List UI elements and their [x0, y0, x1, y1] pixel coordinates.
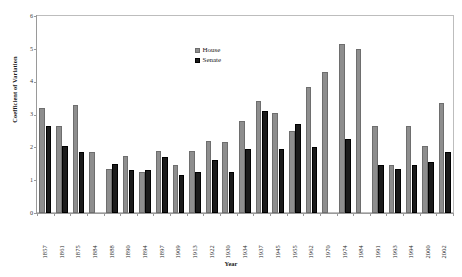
x-tick-mark — [87, 213, 88, 216]
x-tick-label-1962: 1962 — [308, 245, 314, 259]
x-tick-mark — [420, 213, 421, 216]
y-tick-label: 3 — [3, 111, 33, 117]
x-tick-label-1934: 1934 — [242, 245, 248, 259]
x-tick-mark — [287, 213, 288, 216]
bar-senate-1922 — [212, 160, 218, 213]
bar-senate-1913 — [195, 172, 201, 213]
x-tick-mark — [337, 213, 338, 216]
y-tick-label: 4 — [3, 78, 33, 84]
bar-house-1894 — [139, 172, 145, 213]
y-tick-mark — [34, 180, 37, 181]
legend-label-house: House — [203, 46, 221, 56]
bar-senate-1945 — [279, 149, 285, 213]
bar-house-2002 — [439, 103, 445, 213]
x-tick-mark — [153, 213, 154, 216]
y-tick-label: 0 — [3, 210, 33, 216]
x-tick-label-1884: 1884 — [92, 245, 98, 259]
bar-house-2000 — [422, 146, 428, 213]
bar-house-1888 — [106, 169, 112, 213]
bar-house-1922 — [206, 141, 212, 213]
y-tick-mark — [34, 147, 37, 148]
bar-house-1945 — [272, 113, 278, 213]
x-tick-label-1991: 1991 — [375, 245, 381, 259]
bar-house-1934 — [239, 121, 245, 213]
x-tick-mark — [37, 213, 38, 216]
x-tick-mark — [436, 213, 437, 216]
bar-senate-1897 — [162, 157, 168, 213]
x-tick-label-1922: 1922 — [209, 245, 215, 259]
x-axis-title: Year — [0, 260, 462, 267]
x-tick-label-1993: 1993 — [392, 245, 398, 259]
bar-senate-1974 — [345, 139, 351, 213]
y-tick-mark — [34, 115, 37, 116]
x-tick-mark — [303, 213, 304, 216]
y-tick-mark — [34, 49, 37, 50]
x-tick-mark — [54, 213, 55, 216]
y-tick-mark — [34, 82, 37, 83]
y-tick-label: 1 — [3, 177, 33, 183]
x-tick-label-1861: 1861 — [59, 245, 65, 259]
bar-senate-1888 — [112, 164, 118, 213]
bar-house-1962 — [306, 87, 312, 213]
bar-senate-1962 — [312, 147, 318, 213]
x-tick-label-1897: 1897 — [159, 245, 165, 259]
y-tick-label: 2 — [3, 144, 33, 150]
y-tick-label: 5 — [3, 46, 33, 52]
bar-house-1890 — [123, 156, 129, 213]
bar-senate-2000 — [428, 162, 434, 213]
bar-senate-1857 — [46, 126, 52, 213]
bar-house-1994 — [406, 126, 412, 213]
x-tick-label-1913: 1913 — [192, 245, 198, 259]
x-axis-labels: 1857186118751884188818901894189719091913… — [37, 215, 453, 259]
bar-senate-1994 — [412, 165, 418, 213]
x-tick-mark — [320, 213, 321, 216]
x-tick-mark — [187, 213, 188, 216]
x-tick-label-1955: 1955 — [292, 245, 298, 259]
x-tick-mark — [120, 213, 121, 216]
x-tick-label-1890: 1890 — [125, 245, 131, 259]
bar-senate-1894 — [145, 170, 151, 213]
x-tick-label-1888: 1888 — [109, 245, 115, 259]
chart-figure: Coefficient of Variation Year 1857186118… — [0, 0, 462, 277]
x-tick-label-1974: 1974 — [342, 245, 348, 259]
x-tick-mark — [370, 213, 371, 216]
x-tick-label-1937: 1937 — [258, 245, 264, 259]
bar-senate-1937 — [262, 111, 268, 213]
bar-house-1937 — [256, 101, 262, 213]
bar-house-1913 — [189, 151, 195, 213]
senate-swatch-icon — [195, 58, 200, 63]
bar-house-1974 — [339, 44, 345, 213]
bar-senate-1861 — [62, 146, 68, 213]
bar-senate-1875 — [79, 152, 85, 213]
bar-house-1861 — [56, 126, 62, 213]
bar-house-1984 — [356, 49, 362, 213]
bar-house-1993 — [389, 165, 395, 213]
legend-label-senate: Senate — [203, 56, 222, 66]
plot-area — [37, 16, 453, 213]
x-tick-mark — [403, 213, 404, 216]
x-tick-mark — [70, 213, 71, 216]
x-tick-label-1909: 1909 — [175, 245, 181, 259]
bar-senate-1930 — [229, 172, 235, 213]
x-tick-label-2002: 2002 — [441, 245, 447, 259]
x-tick-label-1994: 1994 — [408, 245, 414, 259]
x-tick-label-1984: 1984 — [358, 245, 364, 259]
x-tick-label-1875: 1875 — [75, 245, 81, 259]
x-tick-label-1945: 1945 — [275, 245, 281, 259]
bar-house-1875 — [73, 105, 79, 213]
x-tick-mark — [270, 213, 271, 216]
bar-house-1897 — [156, 151, 162, 213]
bar-house-1884 — [89, 152, 95, 213]
bar-senate-1934 — [245, 149, 251, 213]
x-tick-mark — [220, 213, 221, 216]
x-tick-mark — [104, 213, 105, 216]
x-tick-mark — [453, 213, 454, 216]
chart-legend: House Senate — [195, 46, 221, 65]
x-tick-label-2000: 2000 — [425, 245, 431, 259]
x-axis-line — [36, 213, 454, 214]
x-tick-label-1970: 1970 — [325, 245, 331, 259]
x-tick-mark — [170, 213, 171, 216]
bar-senate-1991 — [378, 165, 384, 213]
x-tick-label-1857: 1857 — [42, 245, 48, 259]
house-swatch-icon — [195, 48, 200, 53]
